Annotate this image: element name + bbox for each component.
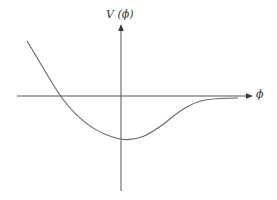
x-axis-label: ϕ [256, 89, 264, 100]
potential-curve [27, 41, 238, 140]
y-axis-label: V (ϕ) [106, 9, 134, 20]
y-axis-arrow-icon [118, 24, 123, 31]
potential-diagram [0, 0, 277, 200]
x-axis-arrow-icon [246, 93, 253, 98]
